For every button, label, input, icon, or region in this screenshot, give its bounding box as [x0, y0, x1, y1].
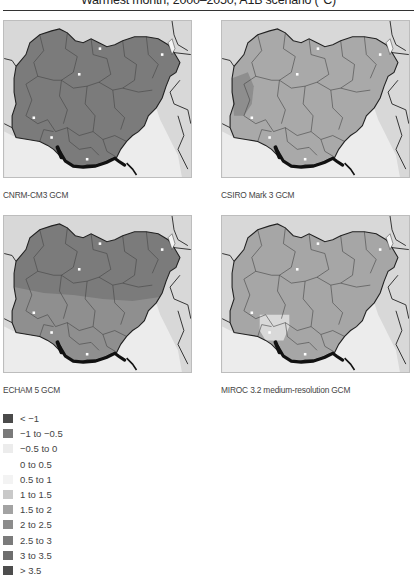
legend-swatch — [3, 429, 13, 438]
legend-item: −1 to −0.5 — [3, 426, 63, 441]
legend-swatch — [3, 505, 13, 514]
legend-swatch — [3, 536, 13, 545]
legend-item: 2.5 to 3 — [3, 533, 63, 548]
legend-item: 1.5 to 2 — [3, 502, 63, 517]
map-panel-echam — [3, 215, 192, 373]
legend-item: 3 to 3.5 — [3, 548, 63, 563]
legend-swatch — [3, 444, 13, 453]
nigeria-map-csiro — [222, 21, 409, 177]
legend-item: 0 to 0.5 — [3, 457, 63, 472]
legend-swatch — [3, 414, 13, 423]
caption-cnrm: CNRM-CM3 GCM — [3, 189, 68, 200]
nigeria-map-echam — [4, 216, 191, 372]
legend-swatch — [3, 460, 13, 469]
legend-item: −0.5 to 0 — [3, 441, 63, 456]
legend-swatch — [3, 475, 13, 484]
map-panel-miroc — [221, 215, 410, 373]
legend-swatch — [3, 490, 13, 499]
caption-csiro: CSIRO Mark 3 GCM — [221, 189, 294, 200]
legend-item: > 3.5 — [3, 563, 63, 578]
map-title: Warmest month, 2000–2050, A1B scenario (… — [0, 0, 417, 7]
legend-item: 2 to 2.5 — [3, 517, 63, 532]
legend-item: 1 to 1.5 — [3, 487, 63, 502]
title-divider — [3, 10, 414, 11]
legend-swatch — [3, 520, 13, 529]
legend: < −1 −1 to −0.5 −0.5 to 0 0 to 0.5 0.5 t… — [3, 411, 63, 578]
caption-miroc: MIROC 3.2 medium-resolution GCM — [221, 384, 350, 395]
legend-swatch — [3, 551, 13, 560]
nigeria-map-miroc — [222, 216, 409, 372]
nigeria-map-cnrm — [4, 21, 191, 177]
legend-item: 0.5 to 1 — [3, 472, 63, 487]
map-panel-cnrm — [3, 20, 192, 178]
legend-item: < −1 — [3, 411, 63, 426]
legend-swatch — [3, 566, 13, 575]
map-panel-csiro — [221, 20, 410, 178]
caption-echam: ECHAM 5 GCM — [3, 384, 60, 395]
